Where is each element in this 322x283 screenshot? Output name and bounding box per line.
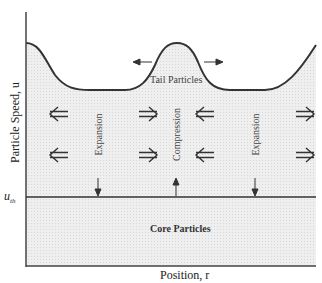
tail-particles-label: Tail Particles [150, 74, 202, 85]
zone-label-expansion-left: Expansion [93, 110, 104, 160]
threshold-label: uth [4, 189, 15, 205]
core-particles-label: Core Particles [150, 223, 211, 234]
zone-label-compression: Compression [171, 105, 182, 165]
x-axis-label: Position, r [160, 268, 209, 283]
threshold-subscript: th [10, 197, 15, 205]
y-axis-label: Particle Speed, u [8, 73, 23, 173]
zone-label-expansion-right: Expansion [250, 110, 261, 160]
diagram-canvas [0, 0, 322, 283]
